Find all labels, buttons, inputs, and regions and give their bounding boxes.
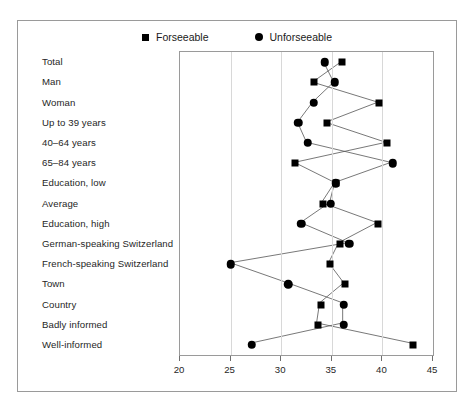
category-label: Up to 39 years [42, 116, 106, 127]
chart-legend: Forseeable Unforseeable [18, 26, 456, 48]
legend-item-unforseeable: Unforseeable [255, 31, 332, 43]
data-point-square [292, 160, 299, 167]
data-point-circle [340, 320, 349, 329]
category-label: French-speaking Switzerland [42, 258, 168, 269]
category-label: Well-informed [42, 338, 102, 349]
data-point-circle [248, 341, 257, 350]
data-point-square [323, 119, 330, 126]
data-point-circle [340, 300, 349, 309]
data-point-square [319, 200, 326, 207]
legend-label-unforseeable: Unforseeable [270, 31, 332, 43]
data-point-circle [327, 199, 336, 208]
plot-area [179, 51, 434, 356]
data-point-square [317, 301, 324, 308]
axis-tick-mark [381, 356, 382, 361]
data-point-circle [345, 240, 354, 249]
axis-tick-mark [331, 356, 332, 361]
data-point-square [375, 220, 382, 227]
data-point-circle [297, 219, 306, 228]
data-point-circle [320, 58, 329, 67]
category-label: Woman [42, 96, 75, 107]
data-point-circle [284, 280, 293, 289]
axis-tick-label: 35 [325, 364, 336, 375]
category-label: Town [42, 278, 65, 289]
data-point-circle [332, 179, 341, 188]
category-label: 65–84 years [42, 157, 96, 168]
gridline [382, 52, 383, 355]
axis-tick-label: 40 [376, 364, 387, 375]
data-point-circle [303, 139, 312, 148]
data-point-circle [309, 98, 318, 107]
data-point-circle [331, 78, 340, 87]
data-point-square [326, 261, 333, 268]
axis-tick-mark [179, 356, 180, 361]
category-label: Education, low [42, 177, 106, 188]
legend-item-forseeable: Forseeable [142, 31, 209, 43]
data-point-square [341, 281, 348, 288]
category-label: German-speaking Switzerland [42, 237, 173, 248]
x-axis: 202530354045 [179, 356, 434, 386]
chart-body: TotalManWomanUp to 39 years40–64 years65… [18, 51, 458, 391]
gridline [281, 52, 282, 355]
axis-tick-mark [280, 356, 281, 361]
data-point-circle [294, 118, 303, 127]
data-point-circle [388, 159, 397, 168]
circle-marker-icon [255, 33, 263, 41]
data-point-square [336, 240, 343, 247]
legend-label-forseeable: Forseeable [156, 31, 209, 43]
square-marker-icon [142, 34, 149, 41]
data-point-circle [226, 260, 235, 269]
axis-tick-label: 45 [427, 364, 438, 375]
chart-figure: Forseeable Unforseeable TotalManWomanUp … [17, 20, 457, 392]
category-label: Education, high [42, 217, 110, 228]
category-axis-labels: TotalManWomanUp to 39 years40–64 years65… [18, 51, 178, 356]
category-label: Average [42, 197, 78, 208]
data-point-square [314, 321, 321, 328]
axis-tick-label: 30 [275, 364, 286, 375]
data-point-square [409, 341, 416, 348]
data-point-square [310, 79, 317, 86]
category-label: Country [42, 298, 76, 309]
category-label: 40–64 years [42, 136, 96, 147]
category-label: Badly informed [42, 318, 107, 329]
axis-tick-mark [230, 356, 231, 361]
category-label: Man [42, 76, 61, 87]
data-point-square [384, 139, 391, 146]
axis-tick-mark [432, 356, 433, 361]
axis-tick-label: 20 [174, 364, 185, 375]
category-label: Total [42, 56, 63, 67]
series-connector-lines [180, 52, 433, 355]
data-point-square [376, 99, 383, 106]
axis-tick-label: 25 [224, 364, 235, 375]
data-point-square [338, 59, 345, 66]
gridline [231, 52, 232, 355]
